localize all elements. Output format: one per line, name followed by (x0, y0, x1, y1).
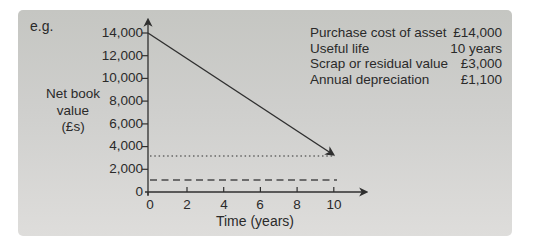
asset-info-table: Purchase cost of asset £14,000 Useful li… (310, 25, 502, 87)
figure: e.g. Net book value (£s) 14,000 12,000 1… (0, 0, 535, 246)
chart-panel: e.g. Net book value (£s) 14,000 12,000 1… (18, 10, 512, 236)
table-row: Useful life 10 years (310, 41, 502, 57)
info-value: £1,100 (461, 72, 502, 88)
x-tick-label: 0 (135, 197, 165, 212)
info-label: Annual depreciation (310, 72, 429, 88)
x-tick-label: 4 (209, 197, 239, 212)
info-label: Purchase cost of asset (310, 25, 447, 41)
info-label: Useful life (310, 41, 369, 57)
table-row: Scrap or residual value £3,000 (310, 56, 502, 72)
x-tick-label: 10 (319, 197, 349, 212)
table-row: Purchase cost of asset £14,000 (310, 25, 502, 41)
x-axis-title: Time (years) (185, 213, 325, 229)
x-tick-label: 6 (245, 197, 275, 212)
info-value: £3,000 (461, 56, 502, 72)
info-value: £14,000 (453, 25, 502, 41)
table-row: Annual depreciation £1,100 (310, 72, 502, 88)
info-label: Scrap or residual value (310, 56, 448, 72)
x-tick-label: 8 (282, 197, 312, 212)
y-tick-marks (142, 33, 148, 169)
x-tick-marks (148, 187, 334, 195)
x-tick-label: 2 (172, 197, 202, 212)
info-value: 10 years (450, 41, 502, 57)
net-book-value-line (148, 33, 333, 155)
